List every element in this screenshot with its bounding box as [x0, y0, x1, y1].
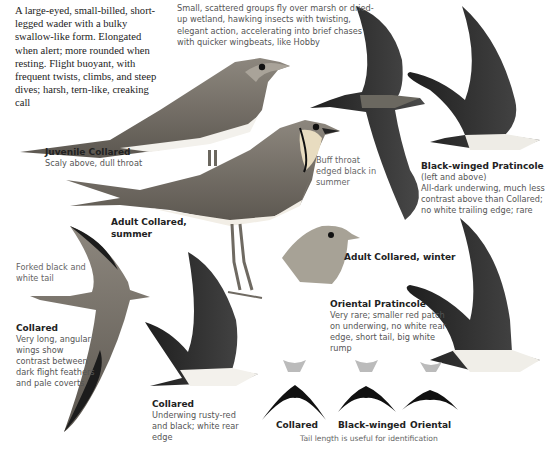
tail-oriental — [402, 362, 458, 410]
tail-label-collared: Collared — [276, 420, 318, 430]
tail-caption: Tail length is useful for identification — [300, 434, 438, 443]
label-adult-collared-winter: Adult Collared, winter — [344, 251, 484, 263]
label-black-winged-pratincole: Black-winged Pratincole (left and above)… — [421, 160, 545, 216]
label-desc: Very rare; smaller red patch on underwin… — [330, 310, 446, 353]
tail-collared — [262, 360, 326, 420]
label-oriental-pratincole: Oriental Pratincole Very rare; smaller r… — [330, 298, 450, 354]
label-juvenile-collared: Juvenile Collared Scaly above, dull thro… — [45, 146, 205, 169]
label-desc: Very long, angular wings show contrast b… — [16, 334, 95, 388]
collared-flight-underside — [145, 252, 258, 386]
label-title: Collared — [152, 398, 252, 410]
behaviour-description: Small, scattered groups fly over marsh o… — [177, 3, 377, 48]
label-title: Collared — [16, 322, 96, 334]
label-desc: All-dark underwing, much less contrast a… — [421, 183, 545, 215]
label-collared-flight: Collared Very long, angular wings show c… — [16, 322, 96, 389]
note-forked-tail: Forked black and white tail — [16, 262, 86, 284]
intro-description: A large-eyed, small-billed, short-legged… — [15, 4, 165, 110]
tail-black-winged — [338, 360, 396, 412]
label-desc: Scaly above, dull throat — [45, 158, 142, 168]
label-desc: Underwing rusty-red and black; white rea… — [152, 410, 239, 442]
note-buff-throat: Buff throat edged black in summer — [316, 155, 378, 188]
tail-label-oriental: Oriental — [410, 420, 451, 430]
label-sub: (left and above) — [421, 172, 545, 183]
tail-label-black-winged: Black-winged — [338, 420, 406, 430]
label-adult-collared-summer: Adult Collared, summer — [111, 216, 203, 240]
tail-diagrams — [262, 360, 458, 420]
label-title: Adult Collared, summer — [111, 216, 203, 240]
black-winged-pratincole-flight-2 — [408, 6, 541, 150]
label-title: Oriental Pratincole — [330, 298, 450, 310]
label-title: Juvenile Collared — [45, 146, 205, 158]
label-title: Black-winged Pratincole — [421, 160, 545, 172]
label-title: Adult Collared, winter — [344, 251, 484, 263]
label-collared-underwing: Collared Underwing rusty-red and black; … — [152, 398, 252, 443]
